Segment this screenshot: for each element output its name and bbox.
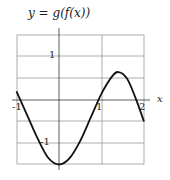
grid (17, 35, 144, 164)
x-axis-label: x (157, 93, 163, 104)
x-tick-2: 2 (139, 101, 145, 112)
function-curve (17, 72, 145, 165)
chart-plot (0, 0, 170, 180)
x-tick-neg1: -1 (12, 101, 22, 112)
axes (12, 28, 150, 170)
x-tick-1: 1 (96, 101, 102, 112)
y-tick-neg1: -1 (40, 136, 50, 147)
y-tick-1: 1 (49, 49, 55, 60)
